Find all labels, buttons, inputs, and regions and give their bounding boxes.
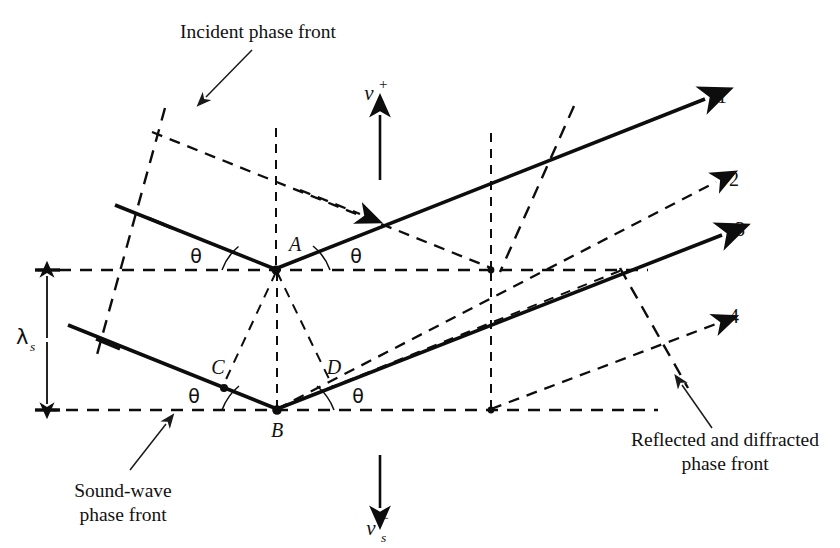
velocity-up-base: v bbox=[364, 81, 374, 105]
node-right-lower bbox=[488, 407, 495, 414]
node-point-b bbox=[272, 405, 282, 415]
leader-incident-phase-front bbox=[206, 50, 252, 97]
diagram-canvas: Incident phase front Sound-wave phase fr… bbox=[0, 0, 840, 548]
velocity-down-superscript: − bbox=[380, 510, 388, 526]
label-ray-1: 1 bbox=[717, 85, 727, 107]
label-velocity-up: v + s bbox=[364, 76, 387, 110]
label-point-a: A bbox=[287, 233, 302, 255]
label-angle-lower-right: θ bbox=[352, 385, 364, 407]
label-wavelength: λ s bbox=[16, 325, 35, 354]
reflected-phase-front-upper bbox=[500, 106, 574, 272]
front-link-b-to-right-upper bbox=[277, 270, 622, 409]
tick-incident-front-upper bbox=[148, 218, 172, 228]
velocity-down-subscript: s bbox=[381, 530, 386, 545]
label-point-b: B bbox=[271, 419, 283, 441]
reflected-phase-front-lower bbox=[620, 268, 688, 388]
label-angle-upper-right: θ bbox=[350, 245, 362, 267]
label-ray-2: 2 bbox=[729, 168, 739, 190]
diffracted-ray-2-dashed bbox=[277, 182, 716, 409]
node-point-a bbox=[271, 265, 280, 274]
label-reflected-phase-front-line1: Reflected and diffracted bbox=[631, 429, 819, 450]
leader-sound-wave-phase-front bbox=[130, 424, 166, 470]
label-reflected-phase-front-line2: phase front bbox=[681, 453, 769, 474]
segment-a-to-d bbox=[277, 272, 333, 387]
label-ray-3: 3 bbox=[735, 218, 745, 240]
label-point-d: D bbox=[326, 356, 342, 378]
label-sound-wave-phase-front-line2: phase front bbox=[79, 504, 167, 525]
node-point-c bbox=[220, 384, 228, 392]
velocity-up-superscript: + bbox=[379, 76, 387, 92]
velocity-down-base: v bbox=[366, 516, 376, 540]
node-right-upper bbox=[488, 267, 495, 274]
label-ray-4: 4 bbox=[729, 305, 739, 327]
velocity-up-subscript: s bbox=[379, 95, 384, 110]
label-angle-upper-left: θ bbox=[190, 245, 202, 267]
label-angle-lower-left: θ bbox=[188, 385, 200, 407]
label-sound-wave-phase-front-line1: Sound-wave bbox=[74, 480, 171, 501]
label-point-c: C bbox=[211, 356, 225, 378]
incident-phase-front-left bbox=[95, 108, 165, 362]
reflected-ray-3-solid bbox=[277, 235, 722, 409]
label-incident-phase-front: Incident phase front bbox=[180, 21, 337, 42]
leader-reflected-phase-front bbox=[682, 385, 712, 428]
acousto-optic-bragg-diagram: Incident phase front Sound-wave phase fr… bbox=[0, 0, 840, 548]
wavelength-subscript: s bbox=[30, 339, 35, 354]
wavelength-base: λ bbox=[16, 325, 28, 349]
segment-a-to-c bbox=[222, 272, 276, 388]
reflected-ray-1-solid bbox=[275, 99, 705, 269]
incident-ray-dashed-upper bbox=[152, 132, 491, 268]
diffracted-ray-4-dashed bbox=[491, 324, 716, 409]
incident-ray-direction-arrow bbox=[300, 190, 360, 214]
label-velocity-down: v − s bbox=[366, 510, 388, 545]
